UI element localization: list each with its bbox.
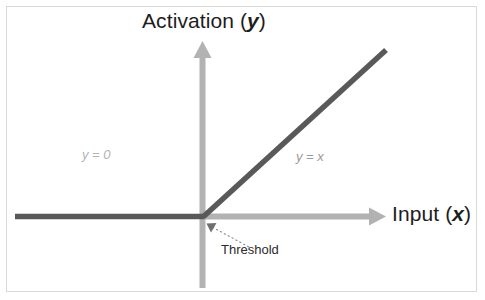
- x-axis-title-prefix: Input (: [392, 202, 452, 225]
- figure-root: Activation (y) Input (x) y = 0 y = x Thr…: [0, 0, 485, 300]
- x-axis-arrowhead: [369, 208, 386, 226]
- y-axis-title-suffix: ): [259, 9, 266, 32]
- x-axis-title: Input (x): [392, 203, 471, 224]
- relu-identity-branch: [203, 50, 386, 217]
- y-axis-title-prefix: Activation (: [142, 9, 247, 32]
- x-axis-title-variable: x: [452, 202, 464, 225]
- y-axis-title-variable: y: [247, 9, 259, 32]
- label-y-equals-zero: y = 0: [82, 148, 111, 161]
- y-axis-title: Activation (y): [142, 10, 266, 31]
- label-threshold: Threshold: [221, 243, 279, 256]
- x-axis-title-suffix: ): [464, 202, 471, 225]
- label-y-equals-x: y = x: [296, 150, 324, 163]
- y-axis-arrowhead: [194, 41, 212, 58]
- threshold-leader-arrowhead: [207, 223, 217, 233]
